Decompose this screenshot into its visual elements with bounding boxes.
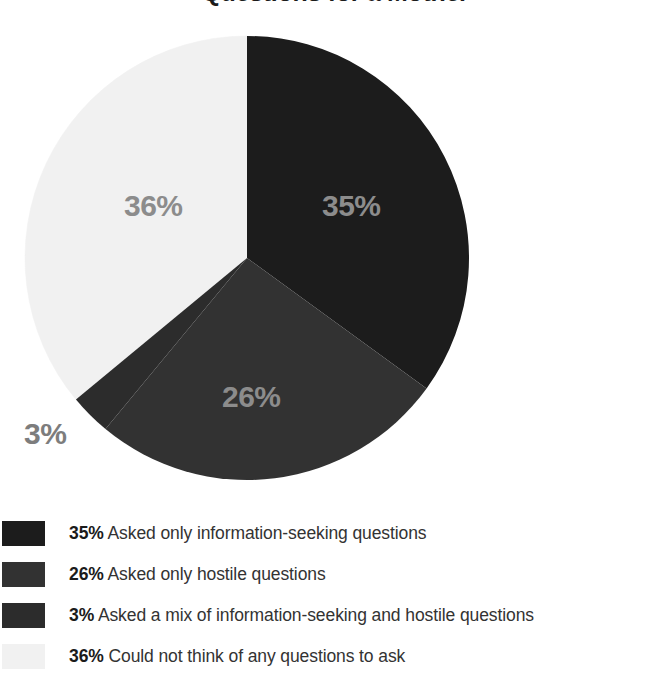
legend-swatch-information-seeking [2,521,45,546]
legend-item-information-seeking[interactable]: 35% Asked only information-seeking quest… [0,513,670,554]
legend-swatch-hostile [2,562,45,587]
legend-label-information-seeking: 35% Asked only information-seeking quest… [69,523,427,544]
legend-description-hostile: Asked only hostile questions [104,564,326,584]
pie-label-26: 26% [222,380,281,413]
legend-label-could-not-think: 36% Could not think of any questions to … [69,646,405,667]
legend-percent-information-seeking: 35% [69,523,104,543]
legend-label-mixed: 3% Asked a mix of information-seeking an… [69,605,534,626]
pie-chart-svg: 35% 26% 3% 36% [0,0,670,500]
legend-description-could-not-think: Could not think of any questions to ask [104,646,405,666]
legend-swatch-could-not-think [2,644,45,669]
legend-label-hostile: 26% Asked only hostile questions [69,564,326,585]
pie-chart: 35% 26% 3% 36% [0,0,670,500]
legend-percent-mixed: 3% [69,605,94,625]
pie-label-35: 35% [322,189,381,222]
legend-item-could-not-think[interactable]: 36% Could not think of any questions to … [0,636,670,677]
legend-item-mixed[interactable]: 3% Asked a mix of information-seeking an… [0,595,670,636]
legend-swatch-mixed [2,603,45,628]
legend-description-information-seeking: Asked only information-seeking questions [104,523,427,543]
pie-label-3: 3% [24,417,66,450]
legend-description-mixed: Asked a mix of information-seeking and h… [94,605,534,625]
legend-item-hostile[interactable]: 26% Asked only hostile questions [0,554,670,595]
legend-percent-could-not-think: 36% [69,646,104,666]
legend-percent-hostile: 26% [69,564,104,584]
chart-legend: 35% Asked only information-seeking quest… [0,513,670,677]
pie-label-36: 36% [124,189,183,222]
